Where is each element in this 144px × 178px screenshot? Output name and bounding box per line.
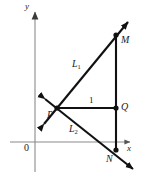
segment-length-label-PQ: 1: [89, 96, 94, 105]
x-axis-label: x: [127, 144, 131, 153]
point-N: [113, 147, 118, 152]
line-label-L2: L2: [69, 124, 78, 135]
point-label-P: P: [47, 110, 53, 120]
line-label-L1-subscript: 1: [78, 63, 81, 70]
geometry-figure: y x 0 P Q M N L1 L2 1: [0, 0, 144, 178]
figure-canvas: [0, 0, 144, 178]
point-label-N: N: [106, 154, 113, 164]
point-M: [113, 32, 118, 37]
point-label-Q: Q: [121, 102, 128, 112]
point-label-M: M: [121, 35, 129, 45]
point-P: [54, 105, 59, 110]
point-Q: [113, 105, 118, 110]
y-axis-label: y: [25, 2, 29, 11]
line-label-L1: L1: [72, 59, 81, 70]
line-label-L2-subscript: 2: [75, 128, 78, 135]
origin-label: 0: [24, 143, 29, 153]
